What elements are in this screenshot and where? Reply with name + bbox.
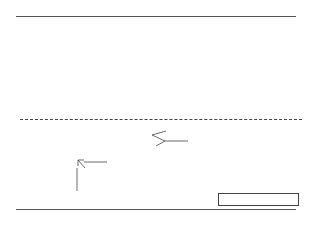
bottom-time-axis	[16, 209, 296, 210]
steady-state-methods-box	[218, 193, 299, 206]
